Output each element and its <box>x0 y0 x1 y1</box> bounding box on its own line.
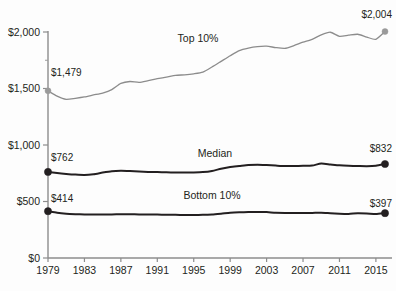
x-axis-tick-label: 1987 <box>109 264 133 276</box>
series-start-value-label: $414 <box>51 193 74 204</box>
x-axis-tick-label: 1995 <box>182 264 206 276</box>
series-start-marker <box>45 88 51 94</box>
series-start-value-label: $1,479 <box>51 67 82 78</box>
y-axis-tick-label: $0 <box>28 252 40 264</box>
series-end-marker <box>381 160 388 167</box>
y-axis-tick-label: $1,000 <box>8 139 40 151</box>
y-axis-tick-label: $500 <box>17 195 41 207</box>
line-chart: $0$500$1,000$1,500$2,000 197919831987199… <box>0 0 396 291</box>
x-axis-tick-label: 2003 <box>255 264 279 276</box>
series-end-marker <box>381 210 388 217</box>
y-axis-tick-label: $1,500 <box>8 82 40 94</box>
x-axis-tick-label: 1979 <box>36 264 60 276</box>
series-end-value-label: $397 <box>370 198 393 209</box>
x-axis-tick-label: 1991 <box>146 264 170 276</box>
x-axis-tick-label: 2011 <box>328 264 351 276</box>
series-start-value-label: $762 <box>51 152 74 163</box>
series-label-bottom-10: Bottom 10% <box>183 189 240 201</box>
series-start-marker <box>44 168 51 175</box>
series-label-top-10: Top 10% <box>178 32 219 44</box>
series-end-marker <box>382 29 388 35</box>
series-label-median: Median <box>198 147 233 159</box>
series-start-marker <box>44 208 51 215</box>
x-axis-tick-label: 2015 <box>364 264 388 276</box>
series-end-value-label: $2,004 <box>361 9 392 20</box>
series-end-value-label: $832 <box>370 143 393 154</box>
x-axis-tick-label: 2007 <box>291 264 315 276</box>
x-axis-tick-label: 1983 <box>73 264 97 276</box>
chart-container: $0$500$1,000$1,500$2,000 197919831987199… <box>0 0 396 291</box>
y-axis-tick-label: $2,000 <box>8 26 40 38</box>
x-axis-tick-label: 1999 <box>218 264 242 276</box>
